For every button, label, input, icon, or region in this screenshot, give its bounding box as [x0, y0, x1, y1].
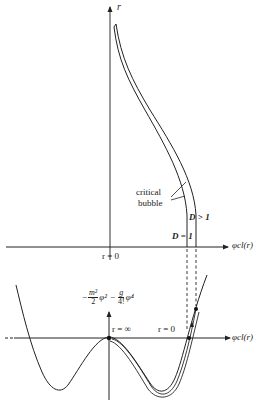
formula-frac-g-over-4fact: g 4! — [118, 289, 125, 307]
curve-label-d-gt-1: D > 1 — [189, 213, 210, 222]
marker-r-infinity — [107, 336, 111, 340]
marker-label-r-zero: r = 0 — [158, 325, 175, 334]
formula-frac-m2-over-2: m² 2 — [88, 289, 98, 307]
marker-label-r-infinity: r = ∞ — [112, 325, 131, 334]
profile-curve-cap — [114, 24, 116, 27]
formula-minus-1: − — [82, 293, 87, 302]
frac-denominator: 4! — [118, 298, 125, 306]
frac-denominator: 2 — [91, 298, 95, 306]
curve-label-d-eq-1: D = 1 — [172, 232, 193, 241]
marker-r-zero-d1 — [187, 336, 191, 340]
lower-x-axis-label: φcl(r) — [232, 333, 253, 342]
marker-r-zero-d-gt-1 — [194, 307, 198, 311]
formula-minus-2: − — [110, 293, 115, 302]
formula-phi2: φ² — [99, 293, 107, 302]
critical-bubble-pointer-2 — [171, 196, 185, 200]
potential-formula: − m² 2 φ² − g 4! φ⁴ — [82, 289, 134, 307]
diagram-canvas — [0, 0, 263, 403]
formula-phi4: φ⁴ — [126, 293, 134, 302]
upper-origin-label: r = 0 — [102, 252, 119, 261]
critical-bubble-label-line2: bubble — [138, 199, 163, 208]
critical-bubble-label-line1: critical — [136, 188, 161, 197]
profile-curve-outer-d-gt-1 — [116, 24, 196, 247]
upper-x-axis-label: φcl(r) — [232, 241, 253, 250]
upper-y-axis-label: r — [117, 2, 121, 12]
